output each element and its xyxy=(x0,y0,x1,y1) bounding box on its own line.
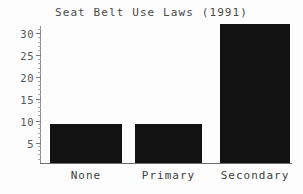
y-minor-tick-28 xyxy=(38,42,41,43)
x-tick-label-primary: Primary xyxy=(131,169,206,182)
y-tick-label-25: 25 xyxy=(4,51,34,61)
y-minor-tick-3 xyxy=(38,150,41,151)
y-minor-tick-4 xyxy=(38,146,41,147)
x-tick-label-secondary: Secondary xyxy=(215,169,295,182)
y-minor-tick-7 xyxy=(38,133,41,134)
y-tick-mark-30 xyxy=(36,33,41,34)
y-tick-label-5: 5 xyxy=(4,139,34,149)
y-axis-tick-labels: 30 25 20 15 10 5 xyxy=(0,0,34,194)
y-tick-label-20: 20 xyxy=(4,73,34,83)
y-tick-mark-15 xyxy=(36,99,41,100)
y-minor-tick-13 xyxy=(38,107,41,108)
y-minor-tick-26 xyxy=(38,50,41,51)
y-minor-tick-29 xyxy=(38,37,41,38)
y-minor-tick-1 xyxy=(38,159,41,160)
x-axis-line xyxy=(40,163,292,164)
y-tick-label-10: 10 xyxy=(4,117,34,127)
y-tick-label-15: 15 xyxy=(4,95,34,105)
bar-none xyxy=(50,124,122,163)
y-minor-tick-2 xyxy=(38,154,41,155)
y-tick-mark-20 xyxy=(36,77,41,78)
bar-secondary xyxy=(220,24,290,163)
y-minor-tick-27 xyxy=(38,46,41,47)
y-minor-tick-9 xyxy=(38,124,41,125)
x-tick-label-none: None xyxy=(50,169,122,182)
y-minor-tick-22 xyxy=(38,68,41,69)
y-tick-mark-10 xyxy=(36,121,41,122)
bar-primary xyxy=(135,124,202,163)
y-minor-tick-14 xyxy=(38,102,41,103)
y-minor-tick-19 xyxy=(38,81,41,82)
y-minor-tick-16 xyxy=(38,94,41,95)
y-minor-tick-24 xyxy=(38,59,41,60)
y-minor-tick-17 xyxy=(38,89,41,90)
y-minor-tick-23 xyxy=(38,63,41,64)
y-minor-tick-31 xyxy=(38,29,41,30)
bar-chart: Seat Belt Use Laws (1991) 30 25 20 15 10… xyxy=(0,0,303,194)
y-minor-tick-8 xyxy=(38,128,41,129)
y-tick-mark-5 xyxy=(36,143,41,144)
y-minor-tick-11 xyxy=(38,115,41,116)
y-minor-tick-12 xyxy=(38,111,41,112)
y-tick-label-30: 30 xyxy=(4,29,34,39)
y-tick-mark-25 xyxy=(36,55,41,56)
y-minor-tick-21 xyxy=(38,72,41,73)
y-minor-tick-18 xyxy=(38,85,41,86)
y-minor-tick-6 xyxy=(38,137,41,138)
chart-title: Seat Belt Use Laws (1991) xyxy=(0,6,303,19)
